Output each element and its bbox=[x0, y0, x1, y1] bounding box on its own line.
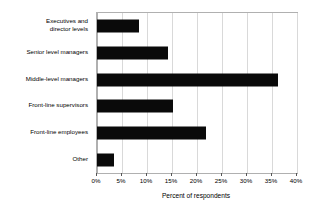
category-label: Middle-level managers bbox=[0, 75, 88, 83]
bar bbox=[97, 20, 139, 33]
x-axis-tick-label: 5% bbox=[117, 177, 126, 185]
bar-series bbox=[97, 13, 297, 173]
category-label: Front-line employees bbox=[0, 128, 88, 136]
x-axis-tick bbox=[296, 173, 297, 176]
x-axis-tick bbox=[96, 173, 97, 176]
category-label: Executives and director levels bbox=[0, 18, 88, 33]
x-axis-tick bbox=[146, 173, 147, 176]
x-axis-tick-label: 25% bbox=[215, 177, 227, 185]
x-axis-tick-label: 40% bbox=[290, 177, 302, 185]
x-axis-tick bbox=[221, 173, 222, 176]
bar bbox=[97, 153, 114, 166]
x-axis-tick-label: 30% bbox=[240, 177, 252, 185]
bar bbox=[97, 73, 278, 86]
x-axis-tick bbox=[171, 173, 172, 176]
x-axis-tick-label: 10% bbox=[140, 177, 152, 185]
x-axis: 0%5%10%15%20%25%30%35%40% bbox=[96, 173, 296, 193]
x-axis-tick-label: 20% bbox=[190, 177, 202, 185]
bar bbox=[97, 100, 173, 113]
category-label: Other bbox=[0, 155, 88, 163]
bar bbox=[97, 127, 206, 140]
category-axis: Executives and director levelsSenior lev… bbox=[0, 12, 92, 172]
category-label: Front-line supervisors bbox=[0, 102, 88, 110]
bar-chart: Executives and director levelsSenior lev… bbox=[0, 0, 316, 212]
x-axis-tick bbox=[246, 173, 247, 176]
x-axis-tick bbox=[196, 173, 197, 176]
category-label: Senior level managers bbox=[0, 48, 88, 56]
x-axis-tick bbox=[271, 173, 272, 176]
x-axis-tick-label: 35% bbox=[265, 177, 277, 185]
x-axis-tick-label: 0% bbox=[92, 177, 101, 185]
plot-area bbox=[96, 12, 298, 174]
gridline bbox=[297, 13, 298, 173]
bar bbox=[97, 47, 168, 60]
x-axis-tick-label: 15% bbox=[165, 177, 177, 185]
x-axis-title: Percent of respondents bbox=[96, 192, 296, 199]
x-axis-tick bbox=[121, 173, 122, 176]
